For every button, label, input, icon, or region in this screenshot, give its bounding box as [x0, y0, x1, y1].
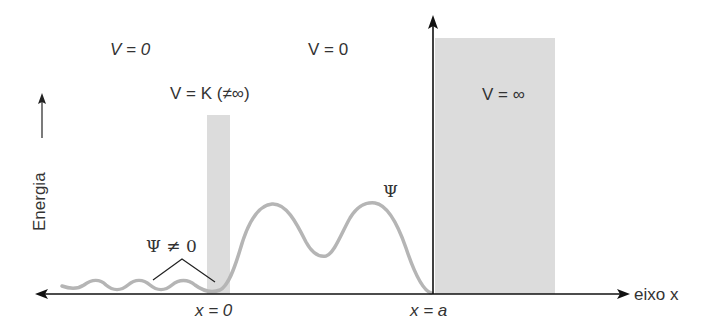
label-v-middle-text: V = 0	[308, 40, 348, 59]
diagram-graphics	[0, 0, 710, 333]
label-v-barrier: V = K (≠∞)	[170, 85, 250, 102]
label-x-a: x = a	[410, 302, 447, 319]
label-energy-axis-text: Energia	[30, 172, 49, 231]
wavefunction-curve	[62, 203, 431, 293]
label-v-barrier-text: V = K (≠∞)	[170, 84, 250, 103]
potential-well-diagram: V = 0 V = 0 V = K (≠∞) V = ∞ Energia Ψ ≠…	[0, 0, 710, 333]
label-psi-text: Ψ	[383, 181, 398, 201]
infinite-potential-region	[435, 38, 555, 294]
label-v-middle: V = 0	[308, 41, 348, 58]
label-x-axis: eixo x	[634, 286, 678, 303]
psi-nonzero-pointer	[153, 259, 215, 282]
label-psi-nonzero-text: Ψ ≠ 0	[146, 236, 197, 256]
label-x-axis-text: eixo x	[634, 285, 678, 304]
label-psi: Ψ	[383, 183, 398, 200]
label-psi-nonzero: Ψ ≠ 0	[146, 238, 197, 255]
label-energy-axis: Energia	[31, 172, 48, 231]
label-x-zero: x = 0	[195, 302, 232, 319]
finite-barrier-region	[207, 115, 230, 294]
label-v-left-text: V = 0	[110, 40, 150, 59]
label-v-left: V = 0	[110, 41, 150, 58]
label-v-wall: V = ∞	[482, 86, 525, 103]
label-v-wall-text: V = ∞	[482, 85, 525, 104]
label-x-a-text: x = a	[410, 301, 447, 320]
label-x-zero-text: x = 0	[195, 301, 232, 320]
